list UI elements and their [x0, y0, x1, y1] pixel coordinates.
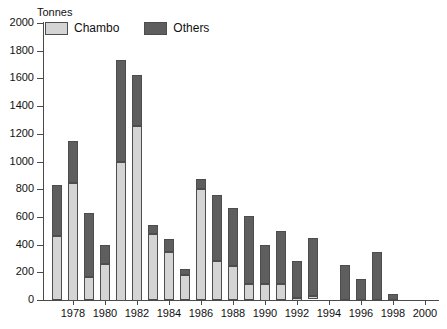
bar-segment-others-1983 [148, 225, 158, 234]
x-axis-tick [297, 301, 298, 305]
bar-1983 [148, 225, 158, 300]
bar-1977 [52, 185, 62, 300]
bar-segment-others-1979 [84, 213, 94, 277]
y-axis-tick [37, 106, 43, 107]
bar-segment-others-1991 [276, 231, 286, 284]
y-axis-tick [37, 134, 43, 135]
y-axis-unit-label: Tonnes [37, 6, 72, 18]
bar-segment-chambo-1988 [228, 266, 238, 300]
bar-segment-chambo-1983 [148, 234, 158, 300]
stacked-bar-chart: Tonnes Chambo Others 2000180016001400120… [0, 0, 447, 329]
bar-segment-chambo-1991 [276, 284, 286, 300]
bar-segment-chambo-1987 [212, 261, 222, 300]
bar-segment-chambo-1977 [52, 236, 62, 300]
bar-segment-others-1990 [260, 245, 270, 284]
x-axis-tick-label: 2000 [405, 307, 445, 319]
bar-segment-chambo-1985 [180, 275, 190, 300]
bar-1991 [276, 231, 286, 300]
y-axis-tick [37, 272, 43, 273]
bar-segment-chambo-1980 [100, 264, 110, 301]
x-axis-tick [105, 301, 106, 305]
bar-1979 [84, 213, 94, 300]
bar-segment-others-1982 [132, 75, 142, 126]
bar-1978 [68, 141, 78, 300]
y-axis-tick [37, 245, 43, 246]
bar-1980 [100, 245, 110, 300]
bar-segment-others-1995 [340, 265, 350, 300]
y-axis-tick [37, 23, 43, 24]
bar-segment-chambo-1981 [116, 162, 126, 301]
y-axis-tick-label: 200 [0, 266, 34, 277]
bar-1996 [356, 279, 366, 300]
chart-legend: Chambo Others [45, 22, 209, 35]
bar-segment-others-1988 [228, 208, 238, 266]
bar-segment-chambo-1984 [164, 252, 174, 300]
bar-1985 [180, 269, 190, 300]
legend-item-chambo: Chambo [45, 22, 119, 35]
y-axis-tick [37, 189, 43, 190]
y-axis-tick [37, 78, 43, 79]
legend-swatch-others-icon [144, 22, 167, 35]
bar-1990 [260, 245, 270, 300]
x-axis-tick [265, 301, 266, 305]
bar-segment-chambo-1978 [68, 183, 78, 301]
bar-segment-others-1996 [356, 279, 366, 300]
legend-label-chambo: Chambo [74, 22, 119, 35]
y-axis-tick [37, 217, 43, 218]
bar-segment-chambo-1979 [84, 277, 94, 300]
bar-1986 [196, 179, 206, 300]
y-axis-tick-label: 1200 [0, 128, 34, 139]
bar-segment-chambo-1989 [244, 284, 254, 300]
bar-1984 [164, 239, 174, 300]
x-axis-tick [169, 301, 170, 305]
bar-segment-others-1984 [164, 239, 174, 252]
y-axis-tick-label: 600 [0, 211, 34, 222]
x-axis-tick [425, 301, 426, 305]
bar-1988 [228, 208, 238, 300]
bar-1995 [340, 265, 350, 300]
legend-label-others: Others [173, 22, 209, 35]
bar-segment-others-1997 [372, 252, 382, 300]
bar-segment-others-1992 [292, 261, 302, 298]
y-axis-line [43, 22, 44, 301]
bar-segment-chambo-1992 [292, 298, 302, 301]
bar-segment-others-1980 [100, 245, 110, 264]
x-axis-tick [73, 301, 74, 305]
bar-1987 [212, 195, 222, 300]
y-axis-tick-label: 400 [0, 239, 34, 250]
bar-segment-others-1998 [388, 294, 398, 300]
legend-swatch-chambo-icon [45, 22, 68, 35]
y-axis-tick [37, 162, 43, 163]
bar-1993 [308, 238, 318, 300]
bar-segment-others-1981 [116, 60, 126, 162]
y-axis-tick-label: 0 [0, 294, 34, 305]
bar-1992 [292, 261, 302, 300]
y-axis-tick-label: 1400 [0, 100, 34, 111]
bar-segment-others-1993 [308, 238, 318, 296]
bar-1982 [132, 75, 142, 300]
y-axis-tick-label: 1800 [0, 45, 34, 56]
x-axis-tick [361, 301, 362, 305]
x-axis-tick [393, 301, 394, 305]
legend-item-others: Others [144, 22, 209, 35]
bar-1998 [388, 294, 398, 300]
y-axis-tick-label: 1600 [0, 72, 34, 83]
bar-segment-others-1977 [52, 185, 62, 236]
y-axis-tick-label: 2000 [0, 17, 34, 28]
x-axis-tick [137, 301, 138, 305]
bar-1997 [372, 252, 382, 300]
bar-segment-others-1978 [68, 141, 78, 183]
bar-1981 [116, 60, 126, 300]
bar-segment-chambo-1993 [308, 296, 318, 299]
bar-1989 [244, 216, 254, 300]
x-axis-tick [201, 301, 202, 305]
bar-segment-others-1986 [196, 179, 206, 189]
bar-segment-chambo-1990 [260, 284, 270, 301]
y-axis-tick-label: 800 [0, 183, 34, 194]
bar-segment-others-1987 [212, 195, 222, 261]
y-axis-tick-label: 1000 [0, 156, 34, 167]
bar-segment-others-1989 [244, 216, 254, 284]
y-axis-tick [37, 51, 43, 52]
bar-segment-chambo-1982 [132, 126, 142, 301]
x-axis-tick [233, 301, 234, 305]
